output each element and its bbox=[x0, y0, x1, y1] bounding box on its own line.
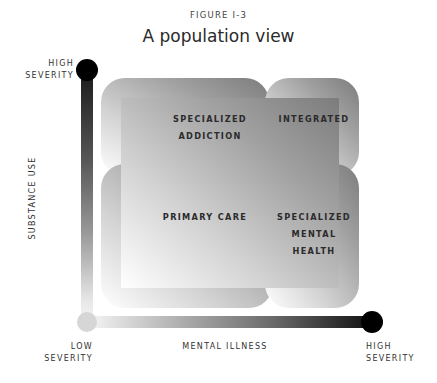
figure-label: FIGURE I-3 bbox=[0, 10, 437, 20]
y-axis-high-dot bbox=[76, 59, 98, 81]
region-specialized-addiction-line1: SPECIALIZED bbox=[150, 111, 270, 128]
region-specialized-mental-health-line2: MENTAL bbox=[264, 226, 364, 243]
x-axis-low-dot bbox=[77, 312, 97, 332]
y-axis-high-label: HIGH SEVERITY bbox=[8, 58, 74, 82]
region-specialized-addiction-line2: ADDICTION bbox=[150, 128, 270, 145]
region-specialized-addiction: SPECIALIZED ADDICTION bbox=[150, 111, 270, 145]
x-axis-name: MENTAL ILLNESS bbox=[150, 341, 300, 353]
region-specialized-mental-health-line1: SPECIALIZED bbox=[264, 209, 364, 226]
x-axis-high-line2: SEVERITY bbox=[366, 353, 436, 365]
y-axis-high-line1: HIGH bbox=[8, 58, 74, 70]
y-axis-bar bbox=[81, 70, 93, 322]
region-primary-care-line1: PRIMARY CARE bbox=[140, 209, 270, 226]
region-specialized-mental-health-line3: HEALTH bbox=[264, 243, 364, 260]
region-primary-care: PRIMARY CARE bbox=[140, 209, 270, 226]
x-axis-low-line1: LOW bbox=[30, 341, 93, 353]
x-axis-high-dot bbox=[361, 311, 383, 333]
y-axis-high-line2: SEVERITY bbox=[8, 70, 74, 82]
x-axis-low-line2: SEVERITY bbox=[30, 353, 93, 365]
x-axis-high-label: HIGH SEVERITY bbox=[366, 341, 436, 365]
region-specialized-mental-health: SPECIALIZED MENTAL HEALTH bbox=[264, 209, 364, 260]
figure-title: A population view bbox=[0, 26, 437, 46]
region-integrated: INTEGRATED bbox=[272, 111, 356, 128]
x-axis-high-line1: HIGH bbox=[366, 341, 436, 353]
x-axis-low-label: LOW SEVERITY bbox=[30, 341, 93, 365]
region-integrated-line1: INTEGRATED bbox=[272, 111, 356, 128]
y-axis-name: SUBSTANCE USE bbox=[28, 143, 37, 253]
x-axis-bar bbox=[87, 316, 372, 328]
